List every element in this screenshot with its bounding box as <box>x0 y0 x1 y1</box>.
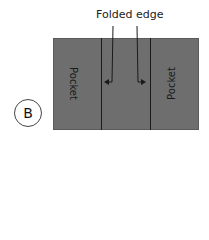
figure-label-text: B <box>23 105 33 121</box>
figure-label-badge: B <box>14 99 42 127</box>
